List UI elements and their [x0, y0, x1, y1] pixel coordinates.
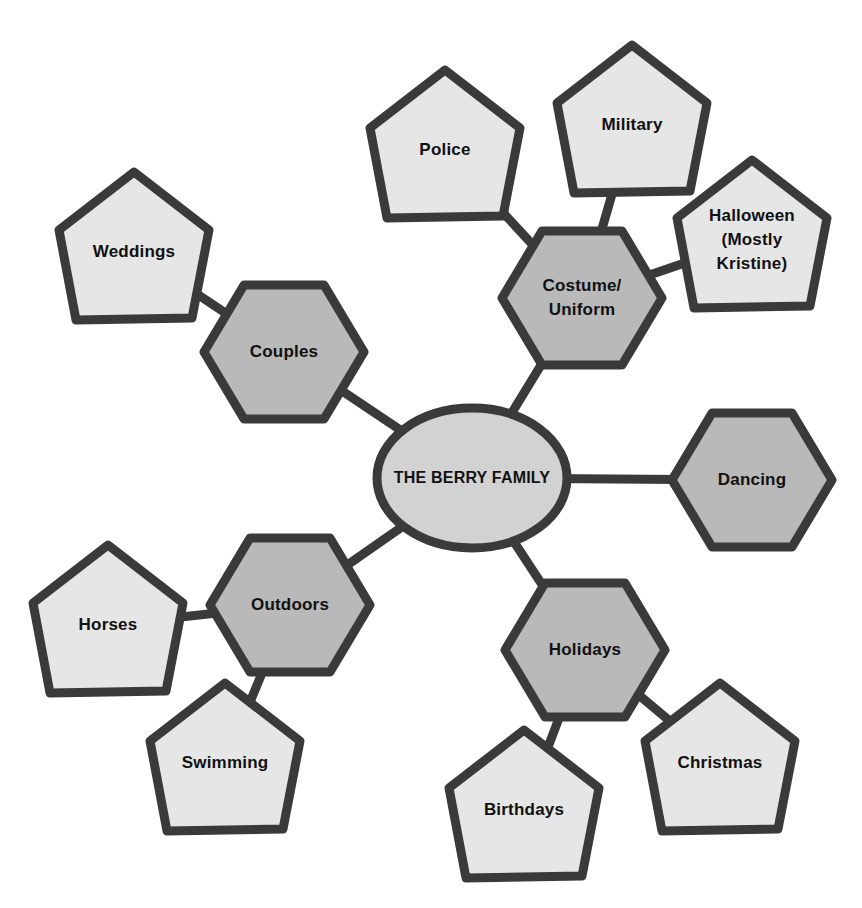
node-label-holidays: Holidays [549, 638, 621, 662]
node-label-military: Military [601, 113, 662, 137]
node-label-couples: Couples [250, 340, 318, 364]
node-label-weddings: Weddings [93, 240, 176, 264]
node-label-christmas: Christmas [678, 751, 763, 775]
label-line: Horses [79, 613, 138, 637]
node-label-costume-uniform: Costume/Uniform [542, 274, 621, 322]
node-label-birthdays: Birthdays [484, 798, 564, 822]
label-line: Police [419, 138, 470, 162]
label-line: THE BERRY FAMILY [394, 466, 550, 490]
mind-map-diagram: THE BERRY FAMILYCouplesCostume/UniformDa… [0, 0, 862, 908]
label-line: Outdoors [251, 593, 329, 617]
node-label-outdoors: Outdoors [251, 593, 329, 617]
label-line: Uniform [542, 298, 621, 322]
label-line: Couples [250, 340, 318, 364]
label-line: (Mostly [709, 228, 795, 252]
label-line: Military [601, 113, 662, 137]
node-label-halloween: Halloween(MostlyKristine) [709, 204, 795, 276]
label-line: Birthdays [484, 798, 564, 822]
node-label-horses: Horses [79, 613, 138, 637]
label-line: Costume/ [542, 274, 621, 298]
label-line: Kristine) [709, 252, 795, 276]
node-label-swimming: Swimming [182, 751, 269, 775]
label-line: Dancing [718, 468, 786, 492]
node-label-dancing: Dancing [718, 468, 786, 492]
node-label-police: Police [419, 138, 470, 162]
label-line: Holidays [549, 638, 621, 662]
node-label-berry-family: THE BERRY FAMILY [394, 466, 550, 490]
label-line: Weddings [93, 240, 176, 264]
label-line: Christmas [678, 751, 763, 775]
label-line: Halloween [709, 204, 795, 228]
label-line: Swimming [182, 751, 269, 775]
